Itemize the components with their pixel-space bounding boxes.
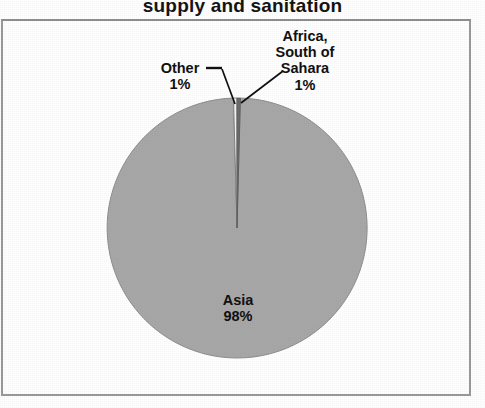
pie-label-asia: Asia 98% (186, 292, 290, 324)
pie-label-africa-line-1: Africa, (252, 28, 358, 44)
chart-title: supply and sanitation (0, 0, 485, 17)
pie-label-africa-south-of-sahara: Africa, South of Sahara 1% (252, 28, 358, 93)
pie-label-africa-line-2: South of (252, 44, 358, 60)
pie-label-africa-value: 1% (252, 77, 358, 93)
pie-label-other: Other 1% (138, 60, 222, 92)
pie-label-other-value: 1% (138, 76, 222, 92)
pie-label-asia-name: Asia (186, 292, 290, 308)
pie-label-other-name: Other (138, 60, 222, 76)
pie-chart (0, 0, 485, 408)
pie-label-asia-value: 98% (186, 308, 290, 324)
chart-page: supply and sanitation Other 1% Africa, S… (0, 0, 485, 408)
pie-label-africa-line-3: Sahara (252, 60, 358, 76)
